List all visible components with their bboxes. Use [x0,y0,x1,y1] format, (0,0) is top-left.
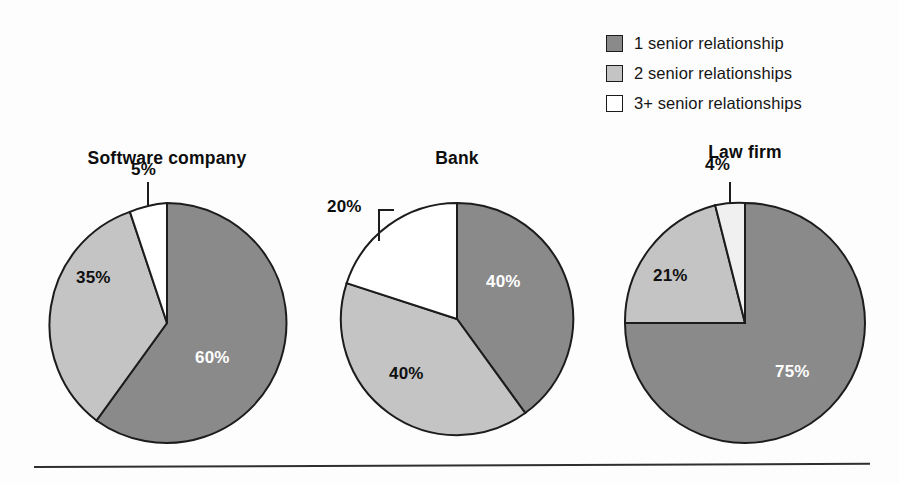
legend-swatch-dark-gray-icon [606,35,623,52]
pie-svg-software-company [47,0,287,483]
pie-value-label-1-senior-relationship: 40% [486,272,521,292]
pie-panel-law-firm: Law firm 75% 21% 4% [625,0,865,483]
pie-value-label-2-senior-relationships: 21% [653,266,688,286]
pie-chart-figure: 1 senior relationship 2 senior relations… [0,0,899,483]
pie-value-label-3plus-senior-relationships: 4% [705,155,730,175]
legend-swatch-white-icon [606,95,623,112]
pie-svg-bank [341,0,573,483]
pie-value-label-1-senior-relationship: 60% [195,348,230,368]
pie-value-label-2-senior-relationships: 40% [389,364,424,384]
pie-value-label-2-senior-relationships: 35% [76,268,111,288]
pie-value-label-3plus-senior-relationships: 5% [131,160,156,180]
pie-value-label-3plus-senior-relationships: 20% [327,197,362,217]
pie-value-label-1-senior-relationship: 75% [775,362,810,382]
pie-panel-software-company: Software company 60% 35% 5% [47,0,287,483]
pie-panel-bank: Bank 40% 40% 20% [341,0,573,483]
legend-swatch-light-gray-icon [606,65,623,82]
pie-svg-law-firm [625,0,865,483]
